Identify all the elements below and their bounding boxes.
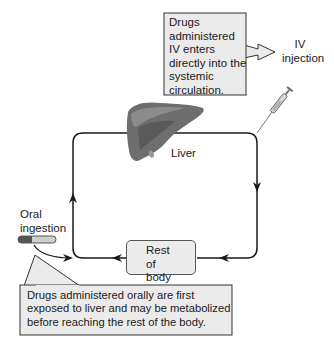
- capsule-icon: [18, 236, 56, 243]
- rest-of-body-box: Rest of body: [126, 240, 196, 275]
- oral-ingestion-label: Oral ingestion: [20, 208, 64, 235]
- oral-callout-text: Drugs administered orally are first expo…: [24, 287, 238, 331]
- syringe-icon: [257, 86, 293, 133]
- iv-injection-label: IV injection: [282, 37, 318, 65]
- oral-entry-arrow: [34, 245, 66, 258]
- oral-callout-pointer: [24, 255, 80, 286]
- liver-label: Liver: [171, 147, 196, 159]
- rest-of-body-label: Rest of body: [146, 244, 180, 285]
- iv-callout-text: Drugs administered IV enters directly in…: [166, 14, 250, 100]
